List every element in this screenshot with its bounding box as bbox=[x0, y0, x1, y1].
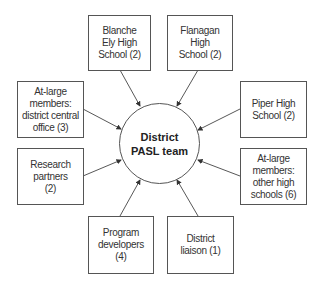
node-program-developers: Program developers (4) bbox=[88, 216, 154, 274]
node-piper: Piper High School (2) bbox=[240, 81, 307, 138]
hub-district-pasl-team: District PASL team bbox=[119, 103, 200, 184]
node-label: At-large members: district central offic… bbox=[22, 86, 79, 134]
node-label: Blanche Ely High School (2) bbox=[98, 25, 141, 61]
node-other-high-schools: At-large members: other high schools (6) bbox=[240, 148, 307, 205]
node-central-office: At-large members: district central offic… bbox=[17, 81, 84, 138]
node-label: Research partners (2) bbox=[30, 159, 70, 195]
node-label: At-large members: other high schools (6) bbox=[251, 153, 297, 201]
node-research-partners: Research partners (2) bbox=[17, 148, 84, 205]
hub-label: District PASL team bbox=[131, 130, 188, 158]
node-label: Piper High School (2) bbox=[252, 98, 296, 122]
node-label: Flanagan High School (2) bbox=[179, 25, 222, 61]
node-blanche-ely: Blanche Ely High School (2) bbox=[88, 15, 151, 71]
node-flanagan: Flanagan High School (2) bbox=[167, 15, 233, 71]
node-label: District liaison (1) bbox=[180, 233, 220, 257]
node-district-liaison: District liaison (1) bbox=[167, 216, 234, 274]
node-label: Program developers (4) bbox=[98, 227, 144, 263]
